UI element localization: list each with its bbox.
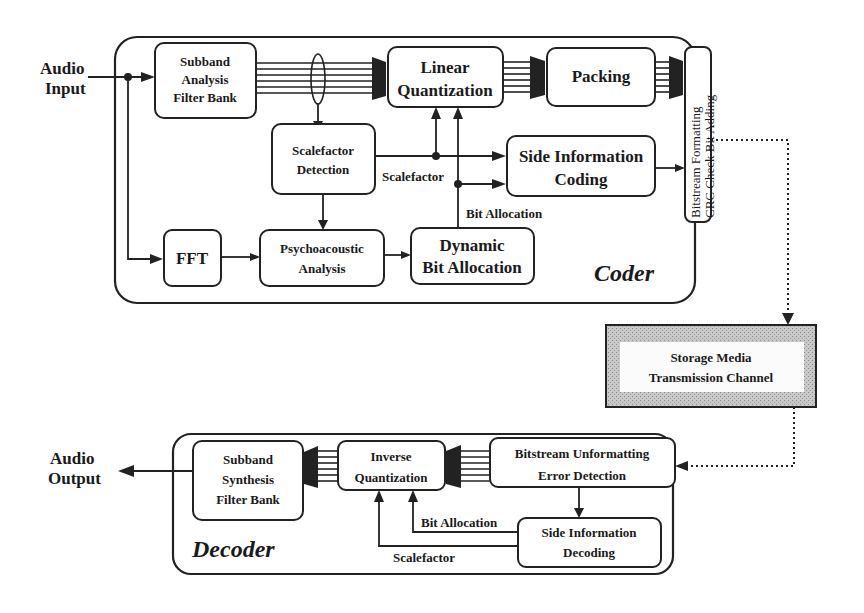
block-label: Linear	[420, 58, 470, 77]
edge-label-scalefactor: Scalefactor	[393, 550, 455, 565]
bus-tap-ellipse	[311, 54, 325, 104]
psychoacoustic-analysis-block	[260, 230, 384, 286]
arrow-icon	[150, 254, 163, 264]
arrow-icon	[574, 508, 584, 518]
block-label: Analysis	[182, 72, 229, 87]
audio-input-label-2: Input	[45, 79, 86, 98]
subband-bus	[256, 57, 386, 100]
block-label: Psychoacoustic	[280, 241, 364, 256]
block-label: Subband	[223, 452, 274, 467]
block-label: FFT	[176, 249, 209, 268]
channel-label: Transmission Channel	[649, 370, 774, 385]
packing-bus	[655, 56, 683, 99]
block-label: Scalefactor	[292, 143, 354, 158]
arrow-icon	[118, 465, 134, 477]
block-label: Decoding	[563, 545, 616, 560]
block-label: Packing	[572, 67, 631, 86]
arrow-icon	[318, 220, 328, 230]
block-label: Bit Allocation	[422, 258, 522, 277]
block-label: Dynamic	[439, 236, 505, 255]
block-label: Subband	[180, 54, 231, 69]
block-label: Filter Bank	[216, 492, 280, 507]
storage-transmission-channel: Storage Media Transmission Channel	[606, 325, 816, 407]
block-label: Quantization	[355, 470, 429, 485]
block-label: Analysis	[299, 261, 346, 276]
arrow-icon	[782, 313, 794, 325]
input-to-fft-line	[128, 77, 155, 259]
coder-to-channel-link	[711, 140, 788, 315]
decoder-title: Decoder	[191, 536, 275, 562]
coder-title: Coder	[594, 260, 655, 286]
arrow-icon	[401, 251, 411, 259]
decoder-synthesis-bus	[304, 446, 338, 488]
block-label: Filter Bank	[173, 90, 237, 105]
edge-label-bit-allocation: Bit Allocation	[466, 206, 543, 221]
block-label: Side Information	[542, 525, 638, 540]
arrow-icon	[141, 72, 155, 82]
audio-input-label-1: Audio	[40, 59, 84, 78]
channel-label: Storage Media	[670, 350, 752, 365]
block-label: Synthesis	[222, 472, 274, 487]
block-label: Side Information	[519, 147, 644, 166]
block-label: Detection	[297, 162, 350, 177]
audio-output-label-2: Output	[48, 469, 101, 488]
arrow-icon	[492, 179, 506, 189]
block-label: Quantization	[397, 81, 493, 100]
block-label: Error Detection	[538, 468, 627, 483]
arrow-icon	[675, 164, 685, 172]
block-label: CRC Check Bit Adding	[702, 94, 717, 218]
decoder-quant-bus	[446, 445, 490, 488]
block-label: Bitstream Formatting	[688, 106, 703, 218]
block-label: Inverse	[370, 449, 411, 464]
mpeg-audio-codec-diagram: Coder Audio Input Subband Analysis Filte…	[0, 0, 864, 613]
arrow-icon	[453, 107, 463, 119]
arrow-icon	[431, 107, 441, 119]
edge-label-scalefactor: Scalefactor	[382, 169, 444, 184]
block-label: Coding	[555, 170, 608, 189]
edge-label-bit-allocation: Bit Allocation	[421, 515, 498, 530]
audio-output-label-1: Audio	[50, 449, 94, 468]
arrow-icon	[374, 490, 384, 502]
arrow-icon	[675, 461, 688, 471]
quant-bus	[503, 56, 545, 99]
scalefactor-detection-block	[272, 124, 375, 194]
arrow-icon	[250, 253, 260, 261]
arrow-icon	[408, 490, 418, 502]
arrow-icon	[492, 151, 506, 161]
channel-to-decoder-link	[685, 407, 794, 466]
coder-group: Coder Audio Input Subband Analysis Filte…	[40, 37, 717, 303]
decoder-group: Decoder Audio Output Subband Synthesis F…	[48, 434, 675, 574]
block-label: Bitstream Unformatting	[515, 446, 650, 461]
